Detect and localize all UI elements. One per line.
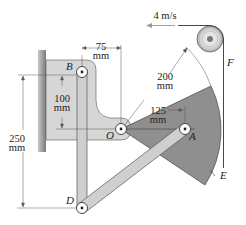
dim-200-unit: mm [152,81,178,92]
dim-75-unit: mm [88,51,114,62]
point-o-label: O [106,130,114,141]
velocity-label: 4 m/s [150,11,180,22]
point-d-label: D [66,195,74,206]
dim-125-unit: mm [145,115,171,126]
dim-250-unit: mm [4,143,30,154]
point-e-label: E [220,170,227,181]
mechanism-diagram: 4 m/s F 75 mm 100 mm 250 mm 200 mm 125 m… [0,0,246,225]
point-a-label: A [189,131,196,142]
pulley [197,26,223,52]
velocity-arrow [146,23,175,28]
force-label-f: F [227,57,234,68]
pin-d [77,203,88,214]
dim-100-unit: mm [49,103,75,114]
pin-b [77,67,88,78]
wall [38,50,46,152]
link-bd [77,72,87,208]
point-b-label: B [66,61,73,72]
